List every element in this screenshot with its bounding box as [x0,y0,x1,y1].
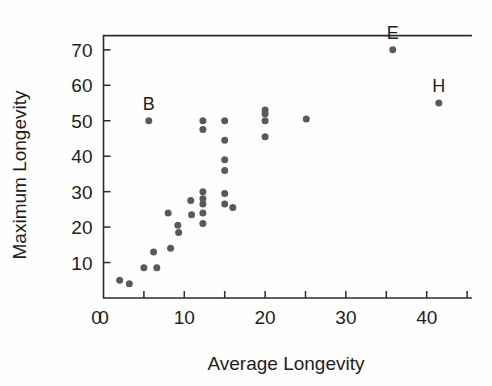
y-tick-labels-group: 10203040506070 [71,40,92,274]
data-point [221,167,228,174]
data-point [262,110,269,117]
plot-canvas: 0102030400 10203040506070 BEH Average Lo… [0,0,492,386]
data-points-group [116,46,442,287]
data-point [199,209,206,216]
y-tick-label-20: 20 [71,217,92,238]
data-point [199,201,206,208]
point-label-E: E [387,23,399,43]
data-point [221,117,228,124]
x-axis-title: Average Longevity [207,353,365,374]
axes-group [104,36,472,298]
data-point [174,222,181,229]
data-point [303,115,310,122]
data-point [165,209,172,216]
data-point [199,188,206,195]
data-point [187,197,194,204]
y-tick-label-50: 50 [71,111,92,132]
data-point [221,190,228,197]
x-tick-label-30: 30 [335,307,356,328]
data-point [150,248,157,255]
data-point [221,201,228,208]
axis-frame [104,36,472,298]
data-point [167,245,174,252]
data-point [145,117,152,124]
point-label-H: H [432,76,445,96]
data-point [199,126,206,133]
point-labels-group: BEH [143,23,446,114]
data-point [188,211,195,218]
x-tick-label-20: 20 [255,307,276,328]
point-label-B: B [143,94,155,114]
x-tick-label-40: 40 [416,307,437,328]
data-point [140,264,147,271]
x-tick-label-10: 10 [174,307,195,328]
x-tick-label-0: 0 [91,307,102,328]
y-axis-title: Maximum Longevity [9,90,30,259]
data-point [199,220,206,227]
data-point [175,229,182,236]
data-point [389,46,396,53]
data-point [262,133,269,140]
y-tick-label-30: 30 [71,182,92,203]
x-tick-labels-group: 0102030400 [91,307,437,328]
data-point [435,100,442,107]
y-tick-label-70: 70 [71,40,92,61]
data-point [116,277,123,284]
data-point [221,137,228,144]
data-point [221,156,228,163]
data-point [199,117,206,124]
y-tick-label-10: 10 [71,253,92,274]
data-point [126,280,133,287]
data-point [229,204,236,211]
y-tick-label-60: 60 [71,75,92,96]
data-point [153,264,160,271]
y-tick-label-40: 40 [71,146,92,167]
scatter-plot-figure: 0102030400 10203040506070 BEH Average Lo… [0,0,492,386]
data-point [262,117,269,124]
tick-marks-group [104,50,468,298]
